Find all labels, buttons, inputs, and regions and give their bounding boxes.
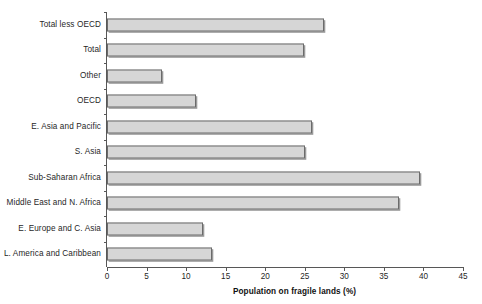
category-label: Middle East and N. Africa <box>7 199 101 207</box>
x-axis-tick <box>186 267 187 271</box>
x-axis-line <box>107 267 464 268</box>
x-axis-tick <box>226 267 227 271</box>
bar <box>107 69 162 82</box>
y-axis-tick <box>104 216 107 217</box>
category-label: S. Asia <box>75 148 101 156</box>
plot-area: Total less OECDTotalOtherOECDE. Asia and… <box>107 12 463 267</box>
x-axis-tick-label: 0 <box>105 273 110 281</box>
x-axis-tick-label: 20 <box>261 273 270 281</box>
y-axis-tick <box>104 12 107 13</box>
bar <box>107 171 420 184</box>
x-axis-tick-label: 35 <box>379 273 388 281</box>
y-axis-tick <box>104 242 107 243</box>
x-axis-title: Population on fragile lands (%) <box>0 288 482 296</box>
x-axis-tick <box>423 267 424 271</box>
x-axis-tick <box>344 267 345 271</box>
category-label: E. Asia and Pacific <box>31 123 101 131</box>
x-axis-tick-label: 10 <box>182 273 191 281</box>
category-label: OECD <box>77 97 101 105</box>
bar <box>107 120 312 133</box>
y-axis-tick <box>104 165 107 166</box>
bar-row: Sub-Saharan Africa <box>107 165 463 191</box>
bar <box>107 44 304 57</box>
y-axis-tick <box>104 38 107 39</box>
category-label: Total <box>83 46 101 54</box>
bar-row: Total less OECD <box>107 12 463 38</box>
bar-chart: Total less OECDTotalOtherOECDE. Asia and… <box>0 0 482 304</box>
y-axis-tick <box>104 114 107 115</box>
category-label: Total less OECD <box>39 21 101 29</box>
bar <box>107 146 305 159</box>
x-axis-tick <box>463 267 464 271</box>
x-axis-tick <box>384 267 385 271</box>
x-axis-tick <box>107 267 108 271</box>
bar <box>107 248 212 261</box>
category-label: Sub-Saharan Africa <box>28 174 101 182</box>
y-axis-tick <box>104 63 107 64</box>
bar-row: Middle East and N. Africa <box>107 191 463 217</box>
bar-row: E. Asia and Pacific <box>107 114 463 140</box>
bar-row: L. America and Caribbean <box>107 242 463 268</box>
x-axis-tick-label: 15 <box>221 273 230 281</box>
category-label: Other <box>80 72 101 80</box>
y-axis-tick <box>104 140 107 141</box>
x-axis-tick <box>265 267 266 271</box>
y-axis-tick <box>104 191 107 192</box>
x-axis-tick-label: 5 <box>144 273 149 281</box>
bar-row: Total <box>107 38 463 64</box>
x-axis-tick-label: 45 <box>458 273 467 281</box>
x-axis-tick <box>147 267 148 271</box>
bar <box>107 222 203 235</box>
bar-row: Other <box>107 63 463 89</box>
bar <box>107 18 324 31</box>
x-axis-tick-label: 25 <box>300 273 309 281</box>
y-axis-tick <box>104 89 107 90</box>
bar <box>107 197 399 210</box>
bar-row: E. Europe and C. Asia <box>107 216 463 242</box>
x-axis-tick-label: 30 <box>340 273 349 281</box>
bar <box>107 95 196 108</box>
bar-row: OECD <box>107 89 463 115</box>
category-label: E. Europe and C. Asia <box>18 225 101 233</box>
x-axis-tick <box>305 267 306 271</box>
bar-row: S. Asia <box>107 140 463 166</box>
x-axis-tick-label: 40 <box>419 273 428 281</box>
category-label: L. America and Caribbean <box>4 250 101 258</box>
